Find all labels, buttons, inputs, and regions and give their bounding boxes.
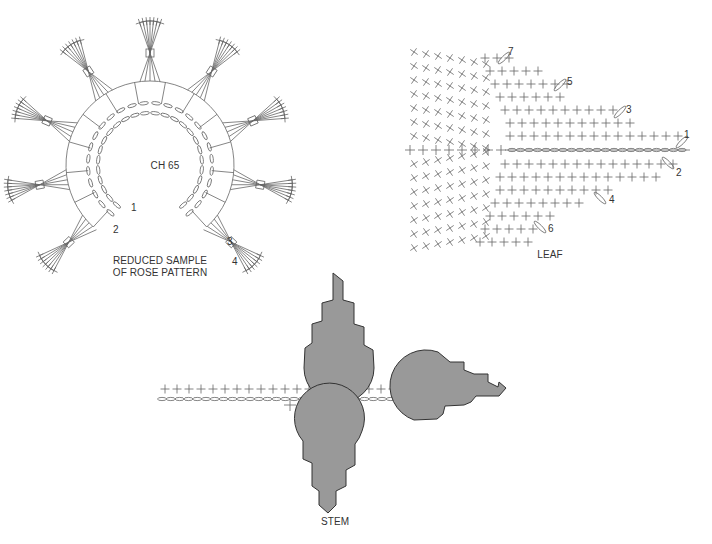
- leaf-row-1: 1: [684, 129, 690, 140]
- rose-diagram: CH 65 1 2 3 4 REDUCED SAMPLE OF ROSE PAT…: [0, 0, 300, 300]
- leaf-diagram: 1 2 3 4 5 6 7 LEAF: [400, 30, 712, 270]
- leaf-chart-graphic: [400, 30, 712, 270]
- rose-row-3: 3: [227, 236, 233, 247]
- stem-caption: STEM: [310, 516, 360, 528]
- leaf-caption: LEAF: [530, 249, 570, 261]
- rose-row-2: 2: [113, 224, 119, 235]
- stem-chart-graphic: [150, 260, 520, 544]
- leaf-row-4: 4: [609, 194, 615, 205]
- leaf-row-2: 2: [676, 167, 682, 178]
- leaf-row-5: 5: [567, 76, 573, 87]
- stem-diagram: STEM: [150, 260, 520, 544]
- leaf-row-3: 3: [626, 104, 632, 115]
- rose-row-1: 1: [131, 202, 137, 213]
- leaf-row-7: 7: [508, 46, 514, 57]
- rose-center-label: CH 65: [140, 160, 190, 172]
- leaf-row-6: 6: [548, 223, 554, 234]
